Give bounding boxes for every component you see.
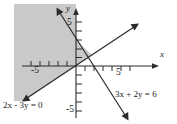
shaded-triangle-near-origin: [76, 40, 92, 66]
equation-label-line-2: 3x + 2y = 6: [115, 90, 157, 99]
line-3x-2y-6-arrowhead-lower: [122, 112, 129, 121]
x-tick-label-negative-5: -5: [31, 66, 39, 76]
y-tick-label-negative-5: -5: [66, 105, 74, 115]
graph-figure: x y -5 5 5 -5 2x - 3y = 0 3x + 2y = 6: [0, 0, 177, 124]
equation-label-line-1: 2x - 3y = 0: [3, 101, 43, 110]
y-axis-label: y: [66, 4, 70, 13]
line-2x-3y-0-arrowhead-upper: [131, 24, 140, 31]
x-axis-arrowhead: [152, 63, 159, 69]
x-tick-label-positive-5: 5: [116, 68, 121, 78]
x-axis-label: x: [160, 50, 164, 59]
y-tick-label-positive-5: 5: [67, 18, 72, 28]
